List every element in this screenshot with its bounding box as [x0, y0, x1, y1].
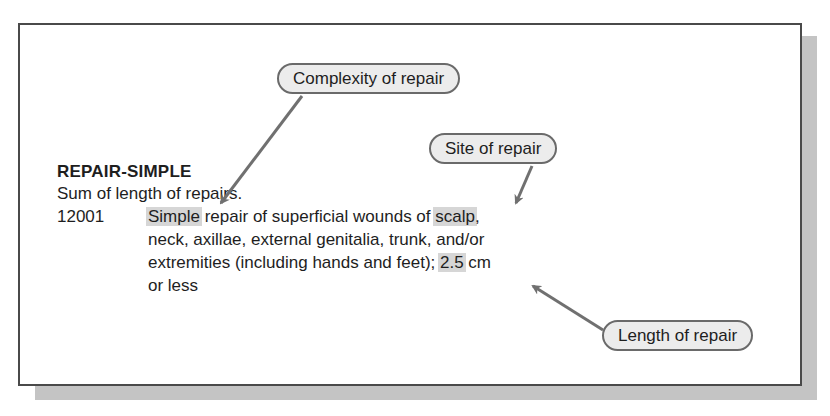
callout-site: Site of repair	[429, 133, 557, 164]
arrow-complexity	[221, 96, 302, 203]
arrow-length	[533, 286, 603, 330]
callout-complexity: Complexity of repair	[277, 63, 460, 94]
callout-length: Length of repair	[602, 320, 753, 351]
arrow-site	[516, 166, 532, 203]
